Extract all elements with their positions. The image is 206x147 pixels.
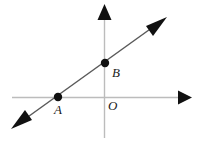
x-axis-arrow-icon xyxy=(178,91,192,105)
line-ab-arrow-start-icon xyxy=(11,110,32,129)
line-ab xyxy=(18,22,160,124)
point-b-label: B xyxy=(112,66,120,79)
point-b-dot xyxy=(101,59,109,67)
line-ab-arrow-end-icon xyxy=(146,17,167,36)
geometry-figure: A B O xyxy=(0,0,206,147)
point-a-label: A xyxy=(54,103,62,116)
point-a-dot xyxy=(54,93,62,101)
figure-canvas xyxy=(0,0,206,147)
origin-label: O xyxy=(108,99,117,112)
y-axis-arrow-icon xyxy=(98,4,112,20)
